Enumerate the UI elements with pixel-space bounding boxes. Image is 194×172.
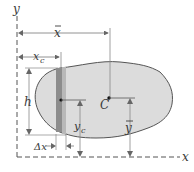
y-axis-label: y [12, 2, 20, 16]
element-strip-light [62, 67, 66, 134]
y-c-subscript: c [81, 126, 86, 135]
x-bar-label: x [54, 26, 61, 40]
y-bar-label: y [124, 121, 132, 135]
centroid-diagram: y x x x c h C y y c Δx [0, 0, 194, 172]
centroid-label: C [100, 98, 109, 112]
x-c-label: x [33, 50, 40, 63]
x-axis-label: x [182, 150, 189, 164]
h-label: h [24, 95, 32, 109]
x-c-subscript: c [40, 56, 45, 65]
delta-x-label: Δx [33, 141, 47, 152]
y-c-label: y [73, 120, 81, 133]
